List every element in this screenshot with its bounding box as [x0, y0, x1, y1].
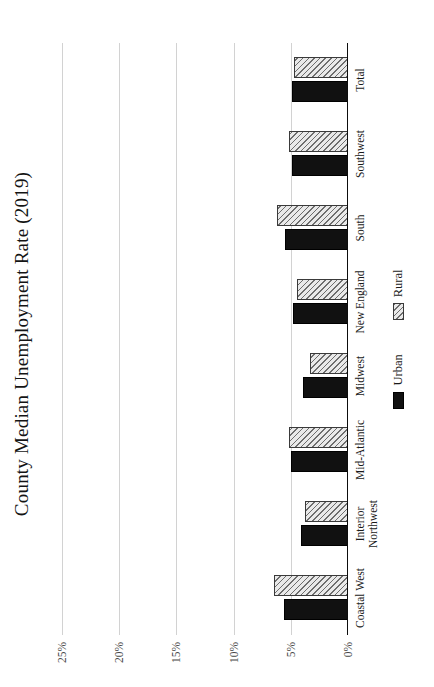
category-label: Mid-Atlantic	[354, 417, 367, 483]
zero-axis-line	[347, 43, 348, 635]
y-tick-label: 5%	[285, 642, 297, 657]
legend-label: Rural	[391, 269, 406, 297]
legend-item-urban: Urban	[391, 354, 406, 408]
bar-group: Midwest	[45, 353, 348, 398]
chart-title: County Median Unemployment Rate (2019)	[11, 9, 33, 679]
bar-urban	[285, 229, 348, 250]
bar-urban	[303, 377, 348, 398]
y-tick-label: 20%	[113, 642, 125, 663]
category-label: Total	[354, 47, 367, 113]
bar-rural	[305, 501, 348, 522]
bar-urban	[293, 303, 348, 324]
bar-rural	[297, 279, 348, 300]
solid-black-swatch	[393, 391, 404, 408]
chart-figure: County Median Unemployment Rate (2019) 0…	[5, 9, 429, 679]
y-tick-label: 10%	[228, 642, 240, 663]
bar-urban	[284, 599, 348, 620]
category-label: South	[354, 195, 367, 261]
y-tick-label: 25%	[56, 642, 68, 663]
bar-group: Coastal West	[45, 575, 348, 620]
bar-rural	[289, 427, 348, 448]
bar-group: Southwest	[45, 131, 348, 176]
bar-rural	[274, 575, 348, 596]
bar-group: New England	[45, 279, 348, 324]
bar-group: Total	[45, 57, 348, 102]
bar-urban	[301, 525, 348, 546]
category-label: Midwest	[354, 343, 367, 409]
plot-area: 0%5%10%15%20%25% Coastal WestInterior No…	[45, 43, 348, 635]
category-label: Interior Northwest	[354, 491, 379, 557]
category-label: Coastal West	[354, 565, 367, 631]
bar-rural	[289, 131, 348, 152]
chart-legend: UrbanRural	[391, 43, 406, 635]
bar-rural	[310, 353, 348, 374]
bar-rural	[277, 205, 348, 226]
rotation-wrapper: County Median Unemployment Rate (2019) 0…	[0, 0, 434, 687]
bar-group: South	[45, 205, 348, 250]
bar-rural	[294, 57, 348, 78]
legend-item-rural: Rural	[391, 269, 406, 320]
category-label: New England	[354, 269, 367, 335]
bar-urban	[291, 451, 348, 472]
figure-screenshot: County Median Unemployment Rate (2019) 0…	[0, 0, 434, 687]
legend-label: Urban	[391, 354, 406, 385]
bar-urban	[292, 81, 348, 102]
y-tick-label: 15%	[170, 642, 182, 663]
bar-group: Interior Northwest	[45, 501, 348, 546]
y-tick-label: 0%	[342, 642, 354, 657]
category-label: Southwest	[354, 121, 367, 187]
hatched-grey-swatch	[393, 303, 404, 320]
bar-group: Mid-Atlantic	[45, 427, 348, 472]
bar-urban	[292, 155, 348, 176]
